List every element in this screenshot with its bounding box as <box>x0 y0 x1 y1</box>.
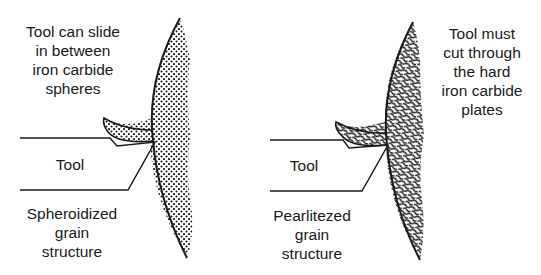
caption-line: Spheroidized <box>12 204 132 223</box>
caption-line: iron carbide <box>427 81 537 100</box>
pearlitized-bottom-caption: Pearlitezed grain structure <box>262 206 362 263</box>
caption-line: grain <box>12 223 132 242</box>
caption-line: structure <box>12 242 132 261</box>
caption-line: in between <box>8 41 138 60</box>
caption-line: grain <box>262 225 362 244</box>
caption-line: Tool can slide <box>8 22 138 41</box>
caption-line: Pearlitezed <box>262 206 362 225</box>
caption-line: cut through <box>427 43 537 62</box>
spheroidized-bottom-caption: Spheroidized grain structure <box>12 204 132 261</box>
caption-line: spheres <box>8 79 138 98</box>
caption-line: plates <box>427 100 537 119</box>
tool-label-left: Tool <box>40 155 100 174</box>
caption-line: structure <box>262 244 362 263</box>
caption-line: Tool must <box>427 24 537 43</box>
caption-line: iron carbide <box>8 60 138 79</box>
spheroidized-top-caption: Tool can slide in between iron carbide s… <box>8 22 138 98</box>
caption-line: the hard <box>427 62 537 81</box>
pearlitized-top-caption: Tool must cut through the hard iron carb… <box>427 24 537 119</box>
tool-label-right: Tool <box>274 156 334 175</box>
